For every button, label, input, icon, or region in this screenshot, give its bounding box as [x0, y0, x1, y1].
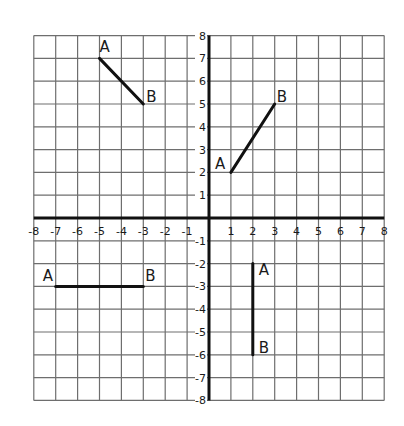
- y-tick-label: 4: [199, 121, 206, 134]
- y-tick-label: -8: [195, 394, 206, 407]
- segment-quadrant-1: AB: [215, 88, 287, 173]
- y-tick-label: -4: [195, 303, 206, 316]
- x-tick-label: 1: [227, 225, 234, 238]
- y-tick-label: -2: [195, 258, 206, 271]
- x-tick-label: -1: [182, 225, 193, 238]
- x-tick-label: -4: [116, 225, 127, 238]
- y-tick-label: -6: [195, 349, 206, 362]
- point-label-b: B: [145, 267, 155, 285]
- point-label-b: B: [146, 88, 156, 106]
- y-tick-label: 2: [199, 166, 206, 179]
- x-tick-label: -3: [138, 225, 149, 238]
- y-tick-label: 3: [199, 144, 206, 157]
- y-tick-label: 8: [199, 30, 206, 43]
- point-label-b: B: [277, 88, 287, 106]
- y-tick-label: -3: [195, 280, 206, 293]
- coordinate-grid-diagram: -8-7-6-5-4-3-2-11234567887654321-1-2-3-4…: [0, 0, 404, 426]
- segment-quadrant-2: AB: [100, 38, 157, 106]
- x-tick-label: 6: [337, 225, 344, 238]
- y-tick-label: 5: [199, 98, 206, 111]
- x-tick-label: 8: [381, 225, 388, 238]
- point-label-b: B: [259, 339, 269, 357]
- x-tick-label: -2: [160, 225, 171, 238]
- x-tick-label: 4: [293, 225, 300, 238]
- x-tick-label: 7: [359, 225, 366, 238]
- y-tick-label: 7: [199, 52, 206, 65]
- point-label-a: A: [259, 261, 270, 279]
- point-label-a: A: [215, 155, 226, 173]
- x-tick-label: 5: [315, 225, 322, 238]
- y-tick-label: 6: [199, 75, 206, 88]
- y-tick-label: -7: [195, 372, 206, 385]
- x-tick-label: 3: [271, 225, 278, 238]
- point-label-a: A: [100, 38, 111, 56]
- x-tick-label: 2: [249, 225, 256, 238]
- y-tick-label: -1: [195, 235, 206, 248]
- y-tick-label: -5: [195, 326, 206, 339]
- x-tick-label: -5: [94, 225, 105, 238]
- point-label-a: A: [43, 267, 54, 285]
- x-tick-label: -6: [72, 225, 83, 238]
- y-tick-label: 1: [199, 189, 206, 202]
- coordinate-plane: -8-7-6-5-4-3-2-11234567887654321-1-2-3-4…: [0, 0, 404, 426]
- x-tick-label: -8: [28, 225, 39, 238]
- x-tick-label: -7: [50, 225, 61, 238]
- axes: [34, 36, 384, 401]
